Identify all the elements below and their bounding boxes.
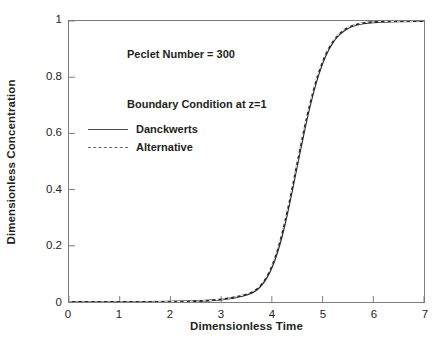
legend: Danckwerts Alternative (88, 120, 198, 156)
cropped-caption (0, 341, 445, 354)
figure-container: Dimensionless Concentration 0 0.2 0.4 0.… (0, 0, 445, 354)
x-tick-label-6: 6 (371, 309, 377, 321)
x-tick-label-5: 5 (320, 309, 326, 321)
x-tick-label-3: 3 (218, 309, 224, 321)
y-axis-title-label: Dimensionless Concentration (4, 79, 16, 244)
y-tick-label-0.4: 0.4 (36, 184, 62, 196)
legend-item-danckwerts: Danckwerts (88, 120, 198, 138)
plot-area (68, 20, 425, 303)
legend-label-danckwerts: Danckwerts (136, 123, 198, 135)
x-tick-label-4: 4 (269, 309, 275, 321)
x-tick-label-7: 7 (422, 309, 428, 321)
legend-swatch-solid-icon (88, 129, 128, 130)
legend-title: Boundary Condition at z=1 (127, 98, 267, 110)
legend-item-alternative: Alternative (88, 138, 198, 156)
legend-label-alternative: Alternative (136, 141, 193, 153)
x-tick-label-0: 0 (65, 309, 71, 321)
peclet-number-annotation: Peclet Number = 300 (127, 48, 235, 60)
y-axis-ticks (69, 21, 75, 302)
legend-swatch-dashed-icon (88, 147, 128, 148)
y-tick-label-1: 1 (36, 14, 62, 26)
x-tick-label-1: 1 (116, 309, 122, 321)
y-tick-label-0: 0 (36, 297, 62, 309)
series-line-alternative (69, 21, 424, 302)
y-tick-label-0.6: 0.6 (36, 127, 62, 139)
y-tick-label-0.8: 0.8 (36, 71, 62, 83)
x-axis-title: Dimensionless Time (68, 320, 425, 332)
series-line-danckwerts (69, 21, 424, 302)
plot-svg (69, 21, 424, 302)
y-axis-title: Dimensionless Concentration (2, 20, 18, 303)
x-tick-label-2: 2 (167, 309, 173, 321)
y-tick-label-0.2: 0.2 (36, 241, 62, 253)
